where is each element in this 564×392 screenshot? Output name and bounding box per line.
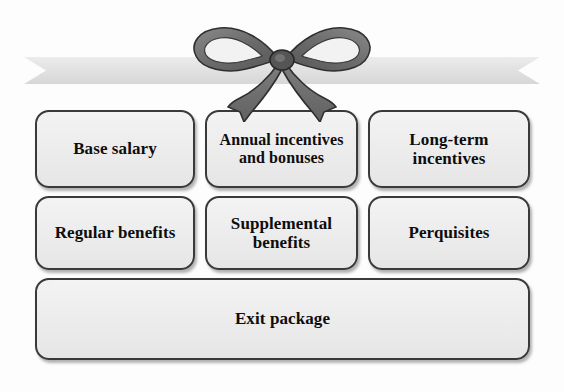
box-base-salary[interactable]: Base salary	[35, 110, 195, 188]
box-label: Annual incentives and bonuses	[207, 131, 356, 167]
box-label: Regular benefits	[51, 223, 180, 242]
box-regular-benefits[interactable]: Regular benefits	[35, 196, 195, 270]
box-label: Base salary	[69, 139, 161, 158]
box-perquisites[interactable]: Perquisites	[368, 196, 530, 270]
box-label: Exit package	[231, 309, 334, 328]
box-label: Perquisites	[404, 223, 493, 242]
box-long-term-incentives[interactable]: Long-term incentives	[368, 110, 530, 188]
box-label: Long-term incentives	[370, 130, 528, 168]
box-exit-package[interactable]: Exit package	[35, 278, 530, 360]
diagram-canvas: Base salary Annual incentives and bonuse…	[0, 0, 564, 392]
ribbon-band	[24, 57, 540, 84]
box-annual-incentives[interactable]: Annual incentives and bonuses	[205, 110, 358, 188]
box-label: Supplemental benefits	[207, 214, 356, 252]
box-supplemental-benefits[interactable]: Supplemental benefits	[205, 196, 358, 270]
